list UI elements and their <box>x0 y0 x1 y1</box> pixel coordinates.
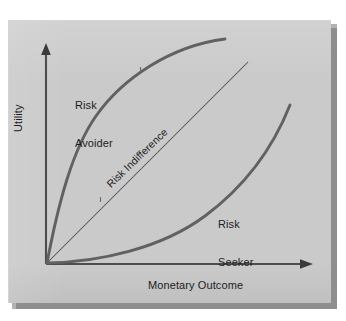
risk-seeker-label-line1: Risk <box>218 218 253 231</box>
risk-seeker-label: Risk Seeker <box>218 193 253 293</box>
x-axis-label: Monetary Outcome <box>148 279 243 292</box>
figure-root: Risk Avoider Risk Seeker Risk Indifferen… <box>0 0 346 321</box>
y-axis-label: Utility <box>12 104 25 132</box>
risk-avoider-label: Risk Avoider <box>75 74 113 174</box>
arrow-right-icon <box>300 259 313 269</box>
arrow-up-icon <box>41 43 51 55</box>
risk-avoider-label-line1: Risk <box>75 99 113 112</box>
risk-avoider-label-line2: Avoider <box>75 137 113 150</box>
plot-canvas <box>0 0 346 321</box>
risk-seeker-label-line2: Seeker <box>218 256 253 269</box>
